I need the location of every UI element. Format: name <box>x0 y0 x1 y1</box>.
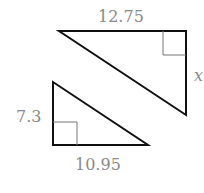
label-top-side: 12.75 <box>98 7 144 26</box>
label-left-side: 7.3 <box>16 107 41 126</box>
triangle-bottom-outline <box>53 82 148 145</box>
similar-triangles-diagram: 12.75 x 7.3 10.95 <box>0 0 204 193</box>
label-bottom-side: 10.95 <box>75 155 121 174</box>
right-angle-marker-bottom <box>53 122 77 145</box>
label-x: x <box>194 66 203 85</box>
triangle-top-outline <box>59 31 186 115</box>
triangle-top <box>59 31 186 115</box>
triangle-bottom <box>53 82 148 145</box>
right-angle-marker-top <box>163 31 186 55</box>
